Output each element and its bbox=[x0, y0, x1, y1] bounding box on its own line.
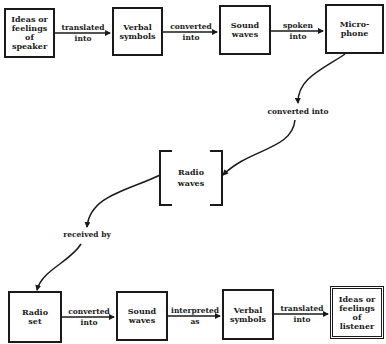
edge-label-translated-into-1: translated into bbox=[56, 22, 110, 44]
curve-to-radio-waves bbox=[223, 120, 295, 175]
edge-label-converted-into-1: converted into bbox=[164, 21, 218, 43]
node-radio-waves: Radio waves bbox=[160, 151, 222, 205]
node-verbal-symbols-2: Verbal symbols bbox=[222, 289, 274, 340]
node-label: Radio waves bbox=[160, 151, 222, 205]
curve-radio-waves-down bbox=[87, 175, 160, 227]
curve-to-radio-set bbox=[37, 244, 81, 290]
node-label: Sound waves bbox=[231, 21, 259, 39]
node-radio-set: Radio set bbox=[8, 291, 62, 343]
edge-label-translated-into-2: translated into bbox=[275, 303, 329, 325]
node-sound-waves-1: Sound waves bbox=[219, 5, 271, 55]
node-label: Verbal symbols bbox=[230, 306, 266, 324]
edge-label-received-by: received by bbox=[56, 229, 118, 240]
node-label: Verbal symbols bbox=[119, 23, 155, 41]
node-microphone: Micro- phone bbox=[325, 4, 384, 54]
edge-label-converted-into-2: converted into bbox=[262, 106, 334, 117]
node-sound-waves-2: Sound waves bbox=[116, 291, 168, 341]
node-verbal-symbols-1: Verbal symbols bbox=[112, 7, 163, 56]
edge-label-spoken-into: spoken into bbox=[272, 20, 324, 42]
edge-label-converted-into-3: converted into bbox=[63, 306, 115, 328]
curve-microphone-down bbox=[298, 54, 345, 103]
node-label: Sound waves bbox=[128, 307, 156, 325]
node-label: Micro- phone bbox=[340, 20, 370, 38]
edge-label-interpreted-as: interpreted as bbox=[168, 305, 222, 327]
node-listener-ideas: Ideas or feelings of listener bbox=[330, 286, 384, 339]
node-label: Ideas or feelings of speaker bbox=[11, 15, 47, 51]
node-label: Radio set bbox=[22, 308, 48, 326]
node-label: Ideas or feelings of listener bbox=[339, 295, 375, 331]
node-speaker-ideas: Ideas or feelings of speaker bbox=[4, 8, 55, 58]
